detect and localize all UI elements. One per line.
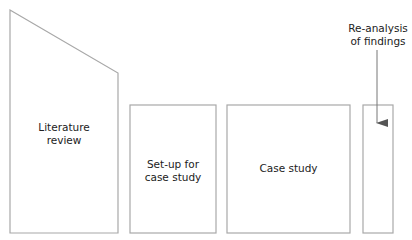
case-study-label: Case study (227, 162, 350, 175)
setup-label: Set-up for case study (130, 158, 216, 184)
reanalysis-box (363, 105, 393, 233)
literature-review-label: Literature review (14, 121, 114, 147)
reanalysis-label: Re-analysis of findings (336, 22, 412, 48)
